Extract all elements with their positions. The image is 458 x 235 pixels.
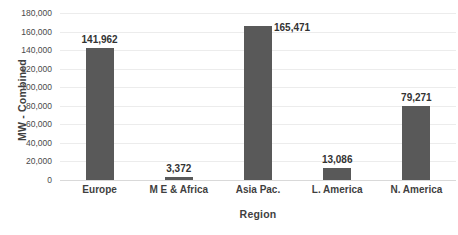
bar-value-label: 141,962 [82,34,118,45]
plot-area: 141,9623,372165,47113,08679,271 [60,13,456,180]
x-axis-tick-labels: EuropeM E & AfricaAsia Pac.L. AmericaN. … [60,184,456,204]
y-axis-tick-label: 160,000 [0,27,56,37]
bar-value-label: 79,271 [401,92,432,103]
x-axis-title: Region [60,208,456,220]
bar-chart: MW - Combined 180,000160,000140,000120,0… [0,0,458,235]
y-axis-tick-label: 60,000 [0,119,56,129]
y-axis-tick-label: 100,000 [0,82,56,92]
y-axis-tick-label: 20,000 [0,156,56,166]
y-axis-tick-label: 40,000 [0,138,56,148]
bar [86,48,114,180]
x-axis-tick-label: Europe [60,184,139,195]
y-axis-tick-label: 120,000 [0,64,56,74]
axis-baseline [60,180,456,181]
y-axis-tick-labels: 180,000160,000140,000120,000100,00080,00… [0,13,56,180]
bar-value-label: 3,372 [166,163,191,174]
bar-group: 79,271 [377,13,456,180]
x-axis-tick-label: Asia Pac. [218,184,297,195]
y-axis-tick-label: 80,000 [0,101,56,111]
x-axis-tick-label: L. America [298,184,377,195]
bar-group: 165,471 [218,13,297,180]
y-axis-tick-label: 0 [0,175,56,185]
bar-group: 3,372 [139,13,218,180]
bar-group: 141,962 [60,13,139,180]
x-axis-tick-label: N. America [377,184,456,195]
y-axis-tick-label: 180,000 [0,8,56,18]
bar [165,177,193,180]
bar [244,26,272,180]
x-axis-tick-label: M E & Africa [139,184,218,195]
bar [323,168,351,180]
bar-value-label: 13,086 [322,154,353,165]
y-axis-tick-label: 140,000 [0,45,56,55]
bar-group: 13,086 [298,13,377,180]
bar [402,106,430,180]
